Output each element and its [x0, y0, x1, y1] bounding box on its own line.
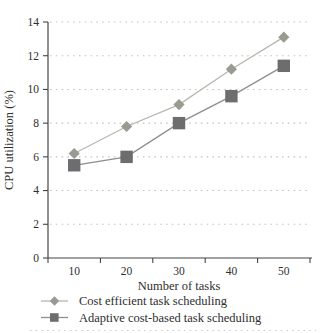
y-tick-label: 6 [33, 151, 39, 163]
y-tick-label: 8 [33, 117, 39, 129]
y-tick-label: 2 [33, 218, 39, 230]
y-tick-label: 12 [28, 50, 40, 62]
legend: Cost efficient task scheduling Adaptive … [41, 294, 262, 325]
marker-diamond [69, 148, 80, 159]
x-tick-label: 30 [173, 265, 185, 277]
plot-area: 024681012141020304050 [28, 16, 313, 277]
y-tick-label: 4 [33, 184, 39, 196]
marker-square [278, 60, 290, 72]
marker-square [68, 159, 80, 171]
series-line-square [74, 66, 284, 165]
y-tick-label: 14 [28, 16, 40, 28]
marker-square [225, 90, 237, 102]
x-tick-label: 20 [121, 265, 133, 277]
marker-diamond [173, 99, 184, 110]
cpu-utilization-chart: 024681012141020304050 Number of tasks CP… [0, 0, 328, 333]
x-axis-title: Number of tasks [138, 279, 221, 293]
x-tick-label: 40 [226, 265, 238, 277]
legend-label-adaptive: Adaptive cost-based task scheduling [79, 311, 262, 325]
marker-diamond [121, 121, 132, 132]
marker-diamond [226, 64, 237, 75]
marker-square [173, 117, 185, 129]
x-tick-label: 50 [278, 265, 290, 277]
legend-diamond-icon [50, 296, 59, 305]
y-tick-label: 0 [33, 252, 39, 264]
legend-label-cost-efficient: Cost efficient task scheduling [79, 294, 228, 308]
series-line-diamond [74, 37, 284, 153]
cpu-utilization-figure: 024681012141020304050 Number of tasks CP… [0, 0, 328, 333]
legend-square-icon [50, 313, 59, 322]
marker-diamond [278, 32, 289, 43]
marker-square [120, 151, 132, 163]
x-tick-label: 10 [68, 265, 80, 277]
y-axis-title: CPU utilization (%) [2, 90, 16, 190]
y-tick-label: 10 [28, 83, 40, 95]
